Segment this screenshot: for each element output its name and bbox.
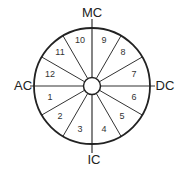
house-9-label: 9 bbox=[101, 35, 106, 45]
house-11-label: 11 bbox=[55, 47, 64, 57]
house-4-label: 4 bbox=[101, 124, 106, 134]
ac-label: AC bbox=[14, 78, 32, 93]
house-7-label: 7 bbox=[131, 69, 136, 79]
house-6-label: 6 bbox=[131, 92, 136, 102]
house-10-label: 10 bbox=[75, 35, 85, 45]
dc-label: DC bbox=[156, 78, 175, 93]
house-12-label: 12 bbox=[45, 69, 55, 79]
ic-label: IC bbox=[88, 152, 101, 167]
inner-circle bbox=[84, 78, 101, 95]
mc-label: MC bbox=[82, 5, 102, 20]
house-2-label: 2 bbox=[57, 111, 62, 121]
house-1-label: 1 bbox=[47, 92, 52, 102]
house-8-label: 8 bbox=[120, 47, 125, 57]
house-wheel-diagram: MC IC AC DC 1 2 3 4 5 6 7 8 9 10 11 12 bbox=[0, 0, 183, 179]
house-5-label: 5 bbox=[119, 111, 124, 121]
house-3-label: 3 bbox=[77, 124, 82, 134]
